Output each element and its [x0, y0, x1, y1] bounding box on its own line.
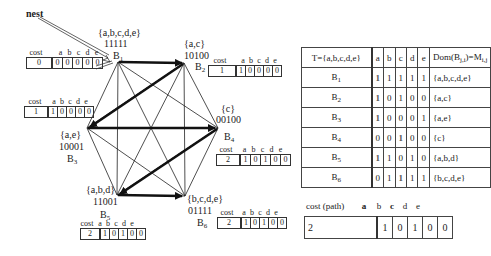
nest-label: nest: [26, 8, 43, 19]
node-b1-cost-box: costabcde 000000: [26, 48, 103, 69]
table-row: B6 0 1 1 1 1 {b,c,d,e}: [302, 168, 491, 188]
path-result-table: 2 1 0 1 0 0: [304, 216, 453, 239]
node-b1-label: B1: [113, 50, 123, 65]
table-header-dom: Dom(Bj,i)=Mi,j: [429, 48, 490, 68]
node-b3-bits: 10001: [59, 141, 84, 152]
table-row: B4 0 0 1 0 0 {c}: [302, 128, 491, 148]
node-b3-set: {a,e}: [60, 129, 81, 140]
node-b3-label: B3: [67, 153, 77, 168]
node-b2-cost-box: costabcde 110000: [208, 56, 282, 77]
node-b5-set: {a,b,d}: [86, 184, 115, 195]
node-b1-bits: 11111: [104, 38, 128, 49]
node-b2-label: B2: [195, 61, 205, 76]
path-arrows: [88, 62, 217, 196]
path-cost-value: 2: [305, 217, 378, 239]
table-row: B2 1 0 1 0 0 {a,c}: [302, 88, 491, 108]
node-b4-cost-box: costabcde 210100: [216, 145, 291, 166]
path-cost-label: cost (path): [306, 201, 344, 211]
node-b6-set: {b,c,d,e}: [187, 193, 223, 204]
table-row: B5 1 1 0 1 0 {a,b,d}: [302, 148, 491, 168]
node-b3-cost-box: costabcde 110000: [24, 97, 94, 118]
node-b6-bits: 01111: [188, 205, 212, 216]
node-b1-set: {a,b,c,d,e}: [98, 27, 141, 38]
node-b4-label: B4: [224, 131, 234, 146]
table-header-set: T={a,b,c,d,e}: [302, 48, 372, 68]
table-header-row: T={a,b,c,d,e} a b c d e Dom(Bj,i)=Mi,j: [302, 48, 491, 68]
block-domain-table: T={a,b,c,d,e} a b c d e Dom(Bj,i)=Mi,j B…: [301, 47, 491, 188]
table-row: 2 1 0 1 0 0: [305, 217, 453, 239]
node-b5-bits: 11001: [93, 196, 118, 207]
node-b6-cost-box: costabcde 210100: [217, 208, 287, 229]
node-b4-bits: 00100: [216, 114, 241, 125]
node-b5-cost-box: costabcde 210100: [80, 219, 146, 240]
node-b4-set: {c}: [221, 103, 235, 114]
table-row: B1 1 1 1 1 1 {a,b,c,d,e}: [302, 68, 491, 88]
node-b6-label: B6: [197, 217, 207, 232]
node-b2-bits: 10100: [184, 50, 209, 61]
node-b2-set: {a,c}: [184, 38, 205, 49]
table-row: B3 1 0 0 0 1 {a,e}: [302, 108, 491, 128]
